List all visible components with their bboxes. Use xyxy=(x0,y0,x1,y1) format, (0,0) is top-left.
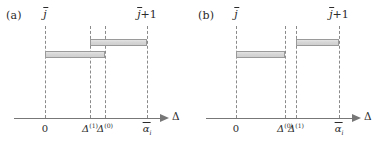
tick-delta-sup-1: Δ(1) xyxy=(82,123,98,134)
panel-a: (a) jj+1 0Δ(1)Δ(0)αi Δ xyxy=(0,0,192,144)
tick-delta-sup-0: Δ(0) xyxy=(97,123,113,134)
j-bar-label: j xyxy=(43,8,46,21)
tick-alpha-bar-i: αi xyxy=(143,123,152,134)
panel-b-axis-line xyxy=(206,118,354,119)
guide-line-tick-alpha-bar-i xyxy=(339,26,340,118)
panel-a-axis-line xyxy=(14,118,162,119)
figure-root: (a) jj+1 0Δ(1)Δ(0)αi Δ (b) jj+1 0Δ(0)Δ(1… xyxy=(0,0,384,144)
panel-b-letter: (b) xyxy=(198,9,214,22)
tick-zero: 0 xyxy=(233,123,239,134)
j-bar-plus-1-label: j+1 xyxy=(329,8,349,21)
panel-a-delta-axis-label: Δ xyxy=(172,110,180,122)
bar-lower-interval xyxy=(236,51,285,58)
panel-b-delta-axis-label: Δ xyxy=(364,110,372,122)
panel-a-letter: (a) xyxy=(6,9,22,22)
guide-line-tick-delta-sup-0 xyxy=(285,26,286,118)
tick-zero: 0 xyxy=(42,123,48,134)
guide-line-tick-alpha-bar-i xyxy=(147,26,148,118)
bar-upper-interval xyxy=(296,39,339,46)
guide-line-tick-zero xyxy=(45,26,46,118)
j-bar-plus-1-label: j+1 xyxy=(137,8,157,21)
tick-alpha-bar-i: αi xyxy=(335,123,344,134)
bar-upper-interval xyxy=(90,39,147,46)
bar-lower-interval xyxy=(45,51,105,58)
j-bar-label: j xyxy=(234,8,237,21)
tick-delta-sup-1: Δ(1) xyxy=(288,123,304,134)
guide-line-tick-zero xyxy=(236,26,237,118)
panel-b-axis-arrowhead xyxy=(352,114,361,122)
panel-a-axis-arrowhead xyxy=(160,114,169,122)
panel-b: (b) jj+1 0Δ(0)Δ(1)αi Δ xyxy=(192,0,384,144)
